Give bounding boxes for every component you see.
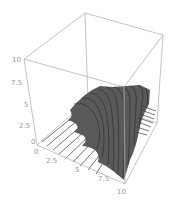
z-axis-ticks: 10 7.5 5 2.5 0 [11,56,35,146]
z-tick-0: 0 [31,138,35,146]
z-tick-5: 5 [24,101,28,109]
z-tick-2-5: 2.5 [19,122,30,130]
x-tick-7-5: 7.5 [98,175,109,183]
x-tick-0: 0 [34,148,38,156]
x-tick-10: 10 [117,188,126,196]
z-tick-7-5: 7.5 [11,79,22,87]
x-tick-2-5: 2.5 [46,157,57,165]
surface-plot-3d: 10 7.5 5 2.5 0 0 2.5 5 7.5 10 [0,0,188,204]
z-tick-10: 10 [12,56,21,64]
x-tick-5: 5 [75,166,79,174]
